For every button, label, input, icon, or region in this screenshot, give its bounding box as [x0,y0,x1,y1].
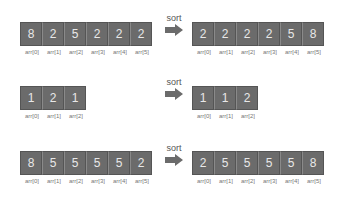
right-arrow-icon [165,88,183,100]
array-cell: 2arr[3] [258,22,280,46]
array-cell: 2arr[2] [236,86,258,110]
row2-before-array: 1arr[0] 2arr[1] 1arr[2] [20,86,86,110]
array-cell: 5arr[4] [280,151,302,175]
array-cell: 2arr[1] [42,22,64,46]
sort-indicator: sort [159,13,189,36]
row3-before-array: 8arr[0] 5arr[1] 5arr[2] 5arr[3] 5arr[4] … [20,151,152,175]
array-cell: 2arr[1] [214,22,236,46]
array-cell: 2arr[5] [130,151,152,175]
row3-after-array: 2arr[0] 5arr[1] 5arr[2] 5arr[3] 5arr[4] … [192,151,324,175]
array-cell: 1arr[0] [20,86,42,110]
row1-before-array: 8arr[0] 2arr[1] 5arr[2] 2arr[3] 2arr[4] … [20,22,152,46]
array-cell: 5arr[2] [64,22,86,46]
array-cell: 2arr[0] [192,151,214,175]
array-cell: 5arr[3] [258,151,280,175]
array-cell: 2arr[2] [236,22,258,46]
array-cell: 1arr[1] [214,86,236,110]
array-cell: 8arr[5] [302,151,324,175]
array-cell: 1arr[0] [192,86,214,110]
array-cell: 5arr[2] [236,151,258,175]
array-cell: 5arr[1] [42,151,64,175]
array-cell: 2arr[4] [108,22,130,46]
sort-label: sort [159,13,189,23]
row1-after-array: 2arr[0] 2arr[1] 2arr[2] 2arr[3] 5arr[4] … [192,22,324,46]
array-cell: 2arr[1] [42,86,64,110]
array-cell: 8arr[0] [20,151,42,175]
sort-label: sort [159,77,189,87]
right-arrow-icon [165,24,183,36]
sort-label: sort [159,143,189,153]
array-cell: 8arr[0] [20,22,42,46]
array-cell: 5arr[3] [86,151,108,175]
sort-indicator: sort [159,77,189,100]
array-cell: 5arr[4] [108,151,130,175]
array-cell: 2arr[5] [130,22,152,46]
array-cell: 2arr[3] [86,22,108,46]
array-cell: 5arr[4] [280,22,302,46]
array-cell: 5arr[1] [214,151,236,175]
array-cell: 8arr[5] [302,22,324,46]
array-cell: 2arr[0] [192,22,214,46]
right-arrow-icon [165,154,183,166]
array-cell: 1arr[2] [64,86,86,110]
sort-indicator: sort [159,143,189,166]
array-cell: 5arr[2] [64,151,86,175]
row2-after-array: 1arr[0] 1arr[1] 2arr[2] [192,86,258,110]
